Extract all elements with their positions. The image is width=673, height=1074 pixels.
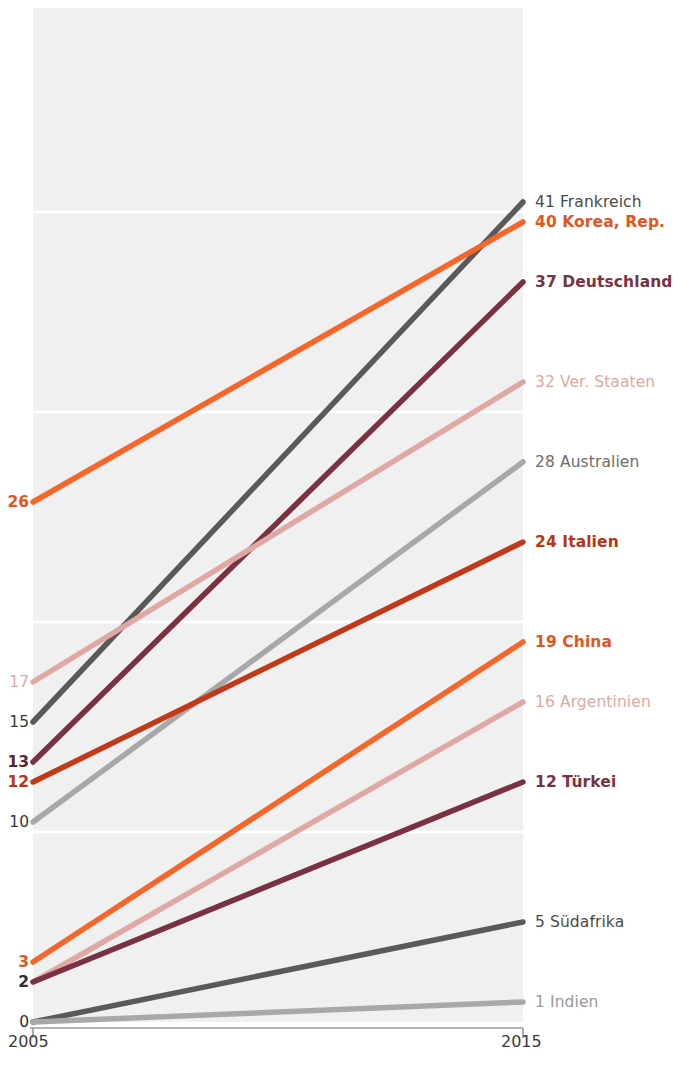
x-axis-tick-2005: 2005	[8, 1032, 49, 1051]
x-axis-tick-2015: 2015	[501, 1032, 542, 1051]
x-axis	[30, 1028, 523, 1038]
